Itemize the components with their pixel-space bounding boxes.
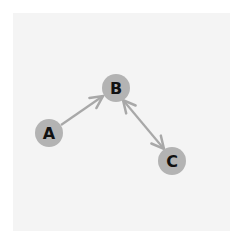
node-c[interactable]: C: [158, 147, 186, 175]
node-a[interactable]: A: [35, 119, 63, 147]
edge-b-to-c: [123, 100, 164, 149]
node-a-label: A: [43, 124, 56, 143]
edge-a-to-b: [61, 96, 103, 125]
graph-canvas: A B C: [0, 0, 241, 242]
node-c-label: C: [166, 152, 178, 171]
node-b-label: B: [110, 79, 122, 98]
node-b[interactable]: B: [102, 74, 130, 102]
